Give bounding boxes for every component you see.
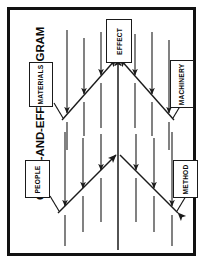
category-box-machinery[interactable]: MACHINERY <box>170 60 194 108</box>
effect-label: EFFECT <box>116 28 123 55</box>
category-box-method[interactable]: METHOD <box>173 160 198 198</box>
cause-bones-machinery <box>135 32 169 113</box>
rib-method <box>120 155 178 213</box>
category-box-materials[interactable]: MATERIALS <box>29 62 53 107</box>
rib-people <box>58 155 116 213</box>
rib-materials <box>62 59 116 120</box>
diagram-frame-border: CAUSE-AND-EFFECT DIAGRAM <box>7 7 196 256</box>
rib-machinery <box>120 59 174 120</box>
category-label-machinery: MACHINERY <box>179 63 186 105</box>
category-box-people[interactable]: PEOPLE <box>25 160 50 198</box>
effect-box[interactable]: EFFECT <box>106 19 132 63</box>
cause-bones-materials <box>67 30 101 113</box>
diagram-canvas: CAUSE-AND-EFFECT DIAGRAM <box>10 10 199 259</box>
cause-bones-method <box>136 132 172 206</box>
category-label-materials: MATERIALS <box>38 65 45 105</box>
fishbone-lines <box>10 10 199 259</box>
cause-bones-people <box>65 132 101 206</box>
category-label-people: PEOPLE <box>34 165 41 193</box>
category-label-method: METHOD <box>182 164 189 194</box>
diagram-page: CAUSE-AND-EFFECT DIAGRAM <box>0 0 203 263</box>
